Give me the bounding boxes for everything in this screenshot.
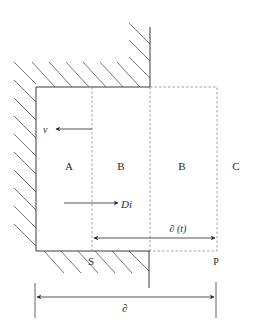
velocity-label: v [43, 124, 48, 135]
region-boundaries [92, 87, 217, 251]
left-wall-hatching [14, 62, 36, 246]
point-s-label: S [88, 255, 94, 267]
diagram-canvas: A B B C v Di ∂ (t) S P ∂ [0, 0, 254, 333]
diffusion-label: Di [120, 198, 132, 210]
delta-label: ∂ [122, 302, 127, 314]
region-label-c: C [232, 160, 239, 172]
point-p-label: P [213, 256, 219, 267]
delta-t-label: ∂ (t) [170, 223, 188, 235]
region-label-a: A [65, 160, 73, 172]
region-label-b1: B [117, 160, 124, 172]
bottom-wall-hatching [44, 251, 149, 273]
region-label-b2: B [178, 160, 185, 172]
top-wall-hatching [32, 23, 150, 87]
